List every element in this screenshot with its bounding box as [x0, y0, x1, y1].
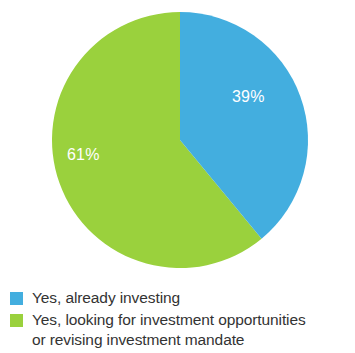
- legend-item-label-line1: Yes, looking for investment opportunitie…: [32, 311, 306, 328]
- chart-legend: Yes, already investing Yes, looking for …: [0, 288, 355, 352]
- pie-chart-graphic: [0, 0, 355, 282]
- legend-item-label: Yes, already investing: [32, 288, 180, 308]
- legend-item-label-line2: or revising investment mandate: [32, 330, 306, 350]
- legend-item-label-line1: Yes, already investing: [32, 289, 180, 306]
- legend-swatch-blue-icon: [10, 292, 23, 305]
- legend-item-looking-for-investment[interactable]: Yes, looking for investment opportunitie…: [0, 310, 355, 350]
- legend-item-label: Yes, looking for investment opportunitie…: [32, 310, 306, 350]
- pie-chart: 39% 61%: [0, 0, 355, 282]
- legend-item-already-investing[interactable]: Yes, already investing: [0, 288, 355, 308]
- legend-swatch-green-icon: [10, 314, 23, 327]
